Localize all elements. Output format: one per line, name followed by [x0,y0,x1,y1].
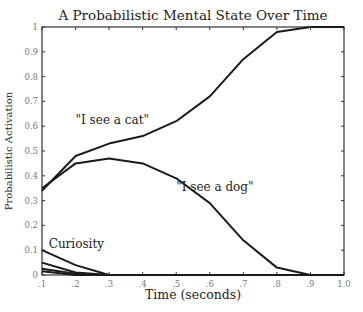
y-tick-label: 0.4 [24,171,38,181]
annotation-cat: "I see a cat" [76,113,149,127]
series-line [42,250,344,275]
y-tick-label: 0.8 [24,72,38,82]
x-tick-label: .1 [38,279,46,289]
y-tick-label: 0.7 [24,96,38,106]
y-tick-labels: 00.10.20.30.40.50.60.70.80.91 [24,22,38,280]
annotation-dog: "I see a dog" [176,180,253,194]
series-line [42,27,344,191]
x-axis-label: Time (seconds) [145,287,241,302]
x-tick-label: .8 [273,279,281,289]
y-tick-label: 0.1 [24,245,38,255]
annotation-curiosity: Curiosity [49,237,105,251]
y-tick-label: 0.2 [24,220,38,230]
y-tick-label: 1 [33,22,38,32]
y-axis-label: Probabilistic Activation [3,91,14,210]
series-line [42,158,344,275]
y-tick-label: 0.6 [24,121,38,131]
y-tick-label: 0.5 [24,146,38,156]
x-tick-label: .2 [71,279,79,289]
y-tick-label: 0.9 [24,47,38,57]
x-tick-label: 1.0 [337,279,351,289]
x-tick-label: .3 [105,279,113,289]
y-tick-label: 0.3 [24,196,38,206]
chart-title: A Probabilistic Mental State Over Time [57,7,327,23]
line-chart: A Probabilistic Mental State Over Time 0… [0,0,363,312]
x-tick-label: .9 [306,279,314,289]
